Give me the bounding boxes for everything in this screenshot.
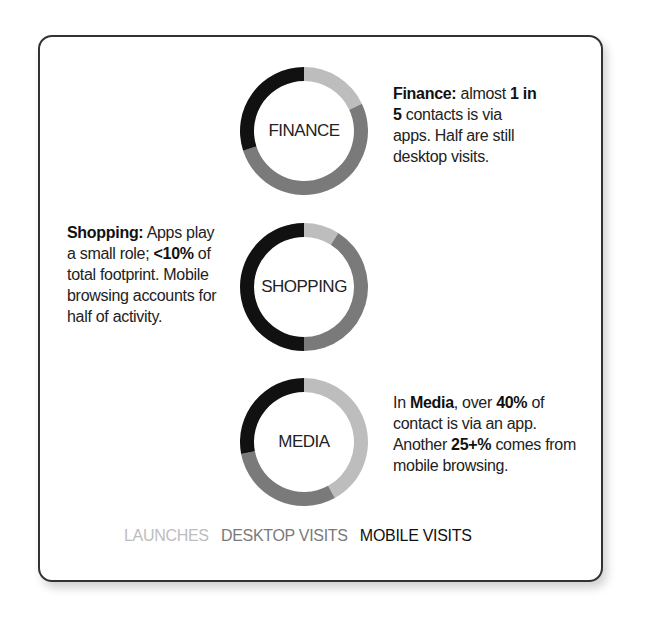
legend-mobile-visits: MOBILE VISITS: [360, 527, 472, 544]
media-annotation-text: , over: [454, 394, 496, 411]
finance-donut-label: FINANCE: [239, 66, 369, 196]
media-annotation-bold-value: 40%: [496, 394, 527, 411]
legend-launches: LAUNCHES: [124, 527, 209, 544]
finance-annotation: Finance: almost 1 in 5 contacts is via a…: [393, 83, 543, 167]
finance-donut-chart: FINANCE: [239, 66, 369, 196]
finance-annotation-text: almost: [456, 85, 510, 102]
shopping-annotation-bold-value: <10%: [154, 245, 194, 262]
media-annotation-bold-title: Media: [410, 394, 454, 411]
finance-annotation-text-2: contacts is via apps. Half are still des…: [393, 106, 514, 165]
media-donut-chart: MEDIA: [239, 377, 369, 507]
media-annotation: In Media, over 40% of contact is via an …: [393, 392, 593, 476]
media-annotation-bold-value-2: 25+%: [451, 436, 491, 453]
media-donut-label: MEDIA: [239, 377, 369, 507]
shopping-donut-label: SHOPPING: [239, 222, 369, 352]
shopping-annotation: Shopping: Apps play a small role; <10% o…: [67, 222, 217, 327]
shopping-donut-chart: SHOPPING: [239, 222, 369, 352]
legend-desktop-visits: DESKTOP VISITS: [221, 527, 348, 544]
finance-annotation-bold-title: Finance:: [393, 85, 456, 102]
chart-legend: LAUNCHES DESKTOP VISITS MOBILE VISITS: [124, 527, 480, 545]
media-annotation-text-0: In: [393, 394, 410, 411]
shopping-annotation-bold-title: Shopping:: [67, 224, 143, 241]
